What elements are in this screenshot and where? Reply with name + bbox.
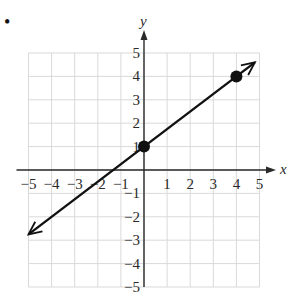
data-point	[230, 70, 242, 82]
bullet-marker: •	[4, 12, 10, 32]
y-tick-label: 2	[133, 115, 141, 131]
y-axis-label: y	[138, 13, 147, 29]
x-axis-label: x	[279, 161, 287, 177]
y-tick-label: 4	[133, 68, 141, 84]
data-series	[29, 62, 255, 234]
y-tick-label: −4	[124, 256, 140, 272]
x-tick-label: 4	[233, 176, 241, 192]
y-tick-label: 5	[133, 45, 141, 61]
y-tick-label: −2	[124, 209, 140, 225]
y-tick-label: 3	[133, 92, 141, 108]
x-axis-arrow-icon	[266, 167, 276, 174]
x-tick-label: 1	[163, 176, 171, 192]
y-tick-label: −5	[124, 279, 140, 295]
coordinate-plane: xy −5−4−3−2−112345−5−4−3−2−112345 •	[0, 0, 290, 302]
x-tick-label: −4	[44, 176, 60, 192]
data-point	[138, 141, 150, 153]
x-tick-label: 5	[256, 176, 264, 192]
y-tick-label: −1	[124, 185, 140, 201]
x-tick-label: 3	[210, 176, 218, 192]
axes: xy	[17, 13, 288, 287]
y-axis-arrow-icon	[141, 30, 148, 40]
x-tick-label: −5	[21, 176, 37, 192]
x-tick-label: −3	[67, 176, 83, 192]
y-tick-label: −3	[124, 232, 140, 248]
x-tick-label: 2	[186, 176, 194, 192]
